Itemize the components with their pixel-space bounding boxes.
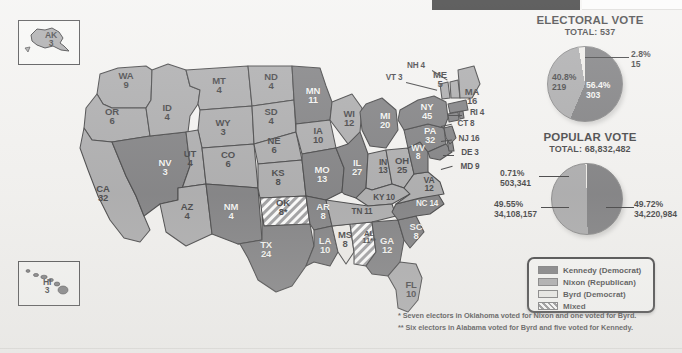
electoral-chart-total: TOTAL: 537 xyxy=(498,27,682,37)
state-OK xyxy=(260,196,310,226)
infographic-page: AK 3 HI 3 WA9 OR6 xyxy=(0,0,682,353)
popular-nixon-leader xyxy=(541,207,569,208)
popular-kennedy-leader xyxy=(606,207,634,208)
state-NH xyxy=(450,80,460,98)
legend-item-nixon: Nixon (Republican) xyxy=(538,277,636,287)
state-NM xyxy=(206,184,262,244)
state-CT xyxy=(448,112,459,122)
legend-swatch-byrd-icon xyxy=(538,290,558,299)
state-ME xyxy=(458,66,480,98)
electoral-byrd-leader xyxy=(585,57,629,58)
footnote-oklahoma: * Seven electors in Oklahoma voted for N… xyxy=(398,311,636,320)
legend-label-nixon: Nixon (Republican) xyxy=(563,278,636,287)
legend-swatch-nixon-icon xyxy=(538,278,558,287)
legend-swatch-kennedy-icon xyxy=(538,266,558,275)
state-CO xyxy=(202,144,258,188)
legend-item-kennedy: Kennedy (Democrat) xyxy=(538,265,641,275)
hawaii-shape xyxy=(19,262,77,303)
stats-panel: ELECTORAL VOTE TOTAL: 537 56.4% 303 40.8… xyxy=(498,14,682,344)
electoral-pie-wrap: 56.4% 303 40.8% 219 2.8% 15 xyxy=(498,37,682,123)
footnote-alabama: ** Six electors in Alabama voted for Byr… xyxy=(398,323,633,332)
legend-item-mixed: Mixed xyxy=(538,301,586,311)
map-legend: Kennedy (Democrat) Nixon (Republican) By… xyxy=(527,257,655,313)
popular-byrd-leader xyxy=(539,176,569,177)
electoral-chart-title: ELECTORAL VOTE xyxy=(498,14,682,26)
legend-item-byrd: Byrd (Democrat) xyxy=(538,289,626,299)
bottom-rule xyxy=(0,348,682,349)
alaska-shape xyxy=(19,21,77,62)
popular-chart-total: TOTAL: 68,832,482 xyxy=(498,144,682,154)
state-WY xyxy=(198,106,254,148)
top-white-bar xyxy=(582,0,682,10)
electoral-nixon-label: 40.8% 219 xyxy=(552,73,576,92)
popular-pie-chart xyxy=(551,163,623,235)
state-FL xyxy=(388,262,422,312)
inset-hawaii: HI 3 xyxy=(18,261,80,306)
popular-byrd-label: 0.71% 503,341 xyxy=(500,169,531,188)
legend-label-kennedy: Kennedy (Democrat) xyxy=(563,266,641,275)
electoral-byrd-label: 2.8% 15 xyxy=(631,50,651,69)
legend-swatch-mixed-icon xyxy=(538,302,558,311)
popular-chart-title: POPULAR VOTE xyxy=(498,131,682,143)
state-MO xyxy=(302,148,344,200)
state-VT xyxy=(440,82,450,99)
map-region: AK 3 HI 3 WA9 OR6 xyxy=(0,8,500,348)
electoral-kennedy-label: 56.4% 303 xyxy=(586,81,610,100)
states-group xyxy=(80,64,480,312)
popular-pie-wrap: 0.71% 503,341 49.55% 34,108,157 49.72% 3… xyxy=(498,154,682,246)
state-WA xyxy=(97,66,152,108)
state-KS xyxy=(258,160,306,198)
legend-label-byrd: Byrd (Democrat) xyxy=(563,290,626,299)
state-ND xyxy=(248,66,294,106)
leader-line-de xyxy=(443,155,454,156)
leader-line-ri xyxy=(448,115,462,116)
legend-label-mixed: Mixed xyxy=(563,302,586,311)
inset-alaska: AK 3 xyxy=(18,20,80,65)
popular-nixon-label: 49.55% 34,108,157 xyxy=(494,200,537,219)
popular-kennedy-label: 49.72% 34,220,984 xyxy=(634,200,677,219)
